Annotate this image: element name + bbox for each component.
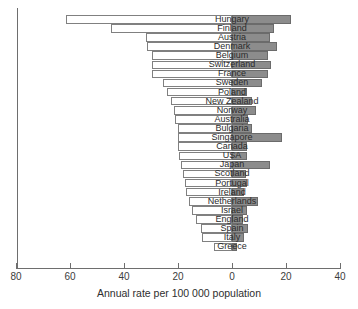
x-axis-tick-mark — [70, 263, 71, 269]
bar-segment-left[interactable] — [214, 243, 232, 252]
bar-segment-right[interactable] — [232, 70, 268, 79]
bar-row[interactable]: Belgium — [0, 51, 358, 60]
bar-row[interactable]: Ireland — [0, 188, 358, 197]
x-axis-tick-mark — [16, 263, 17, 269]
bar-row[interactable]: Portugal — [0, 179, 358, 188]
bar-segment-left[interactable] — [163, 79, 232, 88]
bar-row[interactable]: Finland — [0, 24, 358, 33]
bar-segment-left[interactable] — [186, 188, 232, 197]
bar-segment-right[interactable] — [232, 106, 256, 115]
bar-segment-right[interactable] — [232, 88, 247, 97]
x-axis-tick-label: 40 — [118, 271, 129, 283]
bar-segment-left[interactable] — [167, 88, 232, 97]
bar-row[interactable]: Canada — [0, 142, 358, 151]
y-axis-line — [17, 8, 18, 268]
bar-segment-right[interactable] — [232, 133, 282, 142]
bar-row[interactable]: Singapore — [0, 133, 358, 142]
bar-segment-right[interactable] — [232, 24, 274, 33]
bar-row[interactable]: Israel — [0, 206, 358, 215]
bar-row[interactable]: Sweden — [0, 79, 358, 88]
bar-segment-right[interactable] — [232, 61, 271, 70]
bar-segment-right[interactable] — [232, 224, 248, 233]
bar-segment-left[interactable] — [185, 179, 232, 188]
chart-root: HungaryFinlandAustriaDenmarkBelgiumSwitz… — [0, 0, 358, 309]
x-axis-title: Annual rate per 100 000 population — [0, 287, 358, 300]
x-axis-tick-mark — [232, 263, 233, 269]
bar-segment-right[interactable] — [232, 115, 248, 124]
bar-row[interactable]: Scotland — [0, 170, 358, 179]
bar-segment-left[interactable] — [189, 197, 232, 206]
bar-segment-left[interactable] — [178, 142, 232, 151]
x-axis-tick-label: 20 — [280, 271, 291, 283]
bar-segment-left[interactable] — [201, 224, 232, 233]
bar-row[interactable]: Greece — [0, 243, 358, 252]
x-axis-tick-mark — [286, 263, 287, 269]
bar-row[interactable]: Switzerland — [0, 61, 358, 70]
bar-segment-right[interactable] — [232, 243, 237, 252]
x-axis-tick-label: 0 — [229, 271, 235, 283]
x-axis-tick-label: 40 — [334, 271, 345, 283]
bar-segment-left[interactable] — [178, 124, 232, 133]
bar-segment-left[interactable] — [178, 133, 232, 142]
bar-row[interactable]: Italy — [0, 233, 358, 242]
bar-segment-right[interactable] — [232, 79, 262, 88]
bar-segment-left[interactable] — [147, 42, 232, 51]
bar-segment-left[interactable] — [174, 106, 232, 115]
bar-segment-left[interactable] — [152, 70, 232, 79]
bar-segment-left[interactable] — [111, 24, 233, 33]
bar-row[interactable]: Poland — [0, 88, 358, 97]
bar-segment-right[interactable] — [232, 233, 244, 242]
bar-row[interactable]: Japan — [0, 161, 358, 170]
bar-row[interactable]: Netherlands — [0, 197, 358, 206]
bar-row[interactable]: Spain — [0, 224, 358, 233]
bar-segment-right[interactable] — [232, 152, 247, 161]
bar-segment-right[interactable] — [232, 42, 277, 51]
bar-segment-right[interactable] — [232, 97, 252, 106]
bar-segment-right[interactable] — [232, 15, 291, 24]
x-axis-tick-mark — [124, 263, 125, 269]
bar-segment-right[interactable] — [232, 124, 252, 133]
bar-row[interactable]: Denmark — [0, 42, 358, 51]
bar-segment-left[interactable] — [181, 161, 232, 170]
bar-segment-left[interactable] — [192, 206, 233, 215]
bar-row[interactable]: Austria — [0, 33, 358, 42]
bar-segment-right[interactable] — [232, 51, 268, 60]
bar-segment-right[interactable] — [232, 161, 270, 170]
bar-segment-right[interactable] — [232, 197, 258, 206]
bar-segment-left[interactable] — [175, 115, 232, 124]
bar-segment-left[interactable] — [196, 215, 232, 224]
bar-row[interactable]: USA — [0, 152, 358, 161]
bar-row[interactable]: Norway — [0, 106, 358, 115]
bar-segment-left[interactable] — [171, 97, 232, 106]
x-axis-tick-label: 80 — [10, 271, 21, 283]
bar-segment-left[interactable] — [152, 61, 232, 70]
x-axis-tick-label: 60 — [64, 271, 75, 283]
bar-row[interactable]: Bulgaria — [0, 124, 358, 133]
bar-segment-left[interactable] — [146, 33, 232, 42]
plot-area: HungaryFinlandAustriaDenmarkBelgiumSwitz… — [0, 0, 358, 268]
bar-segment-left[interactable] — [183, 170, 232, 179]
x-axis-line — [17, 268, 341, 269]
bar-segment-left[interactable] — [152, 51, 232, 60]
x-axis-tick-mark — [178, 263, 179, 269]
bar-row[interactable]: Hungary — [0, 15, 358, 24]
bar-segment-right[interactable] — [232, 142, 247, 151]
bar-segment-right[interactable] — [232, 206, 247, 215]
bar-segment-left[interactable] — [202, 233, 232, 242]
bar-segment-right[interactable] — [232, 179, 247, 188]
x-axis-tick-mark — [340, 263, 341, 269]
bar-segment-left[interactable] — [66, 15, 232, 24]
bar-row[interactable]: France — [0, 70, 358, 79]
bar-segment-right[interactable] — [232, 170, 246, 179]
bar-segment-left[interactable] — [179, 152, 232, 161]
x-axis-tick-label: 20 — [172, 271, 183, 283]
bar-segment-right[interactable] — [232, 188, 244, 197]
bar-row[interactable]: New Zealand — [0, 97, 358, 106]
bar-row[interactable]: Australia — [0, 115, 358, 124]
bar-segment-right[interactable] — [232, 33, 270, 42]
bar-row[interactable]: England — [0, 215, 358, 224]
bar-segment-right[interactable] — [232, 215, 243, 224]
